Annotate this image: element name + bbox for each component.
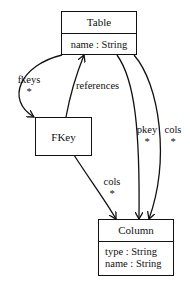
label-table-cols-multiplicity: * <box>162 136 184 148</box>
class-table-name: Table <box>62 12 136 34</box>
class-column-attributes: type : String name : String <box>99 242 173 270</box>
class-column[interactable]: Column type : String name : String <box>98 219 174 276</box>
label-fkey-cols-role: cols <box>100 176 124 188</box>
label-table-cols: cols * <box>162 124 184 148</box>
class-table-attribute: name : String <box>62 34 136 52</box>
label-fkeys-multiplicity: * <box>14 86 44 98</box>
class-column-attribute-type: type : String <box>105 246 173 258</box>
class-fkey[interactable]: FKey <box>35 117 92 156</box>
label-pkey: pkey * <box>135 124 159 148</box>
label-fkeys-role: fkeys <box>14 74 44 86</box>
label-fkey-cols-multiplicity: * <box>100 188 124 200</box>
label-fkeys: fkeys * <box>14 74 44 98</box>
label-pkey-multiplicity: * <box>135 136 159 148</box>
class-column-name: Column <box>99 220 173 242</box>
label-pkey-role: pkey <box>135 124 159 136</box>
class-table[interactable]: Table name : String <box>61 11 137 55</box>
label-references: references <box>76 80 119 92</box>
label-fkey-cols: cols * <box>100 176 124 200</box>
class-column-attribute-name: name : String <box>105 258 173 270</box>
label-table-cols-role: cols <box>162 124 184 136</box>
class-fkey-name: FKey <box>36 118 91 155</box>
